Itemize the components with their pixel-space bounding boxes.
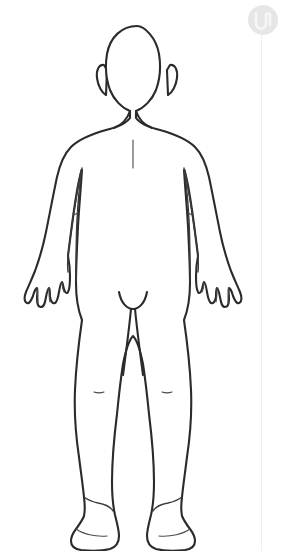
u-logo-watermark: [247, 4, 279, 36]
watermark-guide-line: [261, 30, 262, 551]
body-silhouette: [25, 26, 242, 551]
human-body-outline: [0, 0, 283, 551]
illustration-canvas: [0, 0, 283, 551]
watermark-circle: [248, 5, 278, 35]
right-ear-icon: [167, 65, 177, 95]
